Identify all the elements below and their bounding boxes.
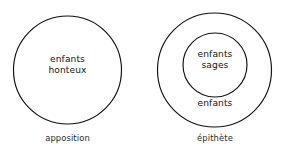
left-circle-label: enfants honteux (13, 54, 122, 76)
venn-diagram-figure: enfants honteux apposition enfants sages… (0, 0, 284, 155)
right-diagram-caption: épithète (158, 133, 272, 143)
right-inner-circle-label: enfants sages (183, 49, 247, 71)
left-diagram-caption: apposition (13, 133, 122, 143)
diagram-canvas (0, 0, 284, 155)
right-outer-circle-label: enfants (158, 98, 272, 109)
